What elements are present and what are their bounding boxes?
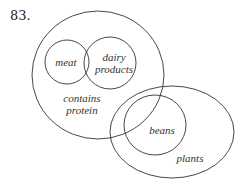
label-dairy-2: products [94, 63, 133, 75]
label-protein: protein [65, 104, 98, 116]
label-plants: plants [176, 152, 204, 164]
label-meat: meat [55, 56, 77, 68]
venn-diagram: meat dairy products contains protein bea… [0, 0, 236, 181]
label-contains: contains [63, 92, 100, 104]
label-dairy-1: dairy [102, 51, 125, 63]
set-contains-protein [32, 11, 164, 139]
label-beans: beans [149, 124, 175, 136]
